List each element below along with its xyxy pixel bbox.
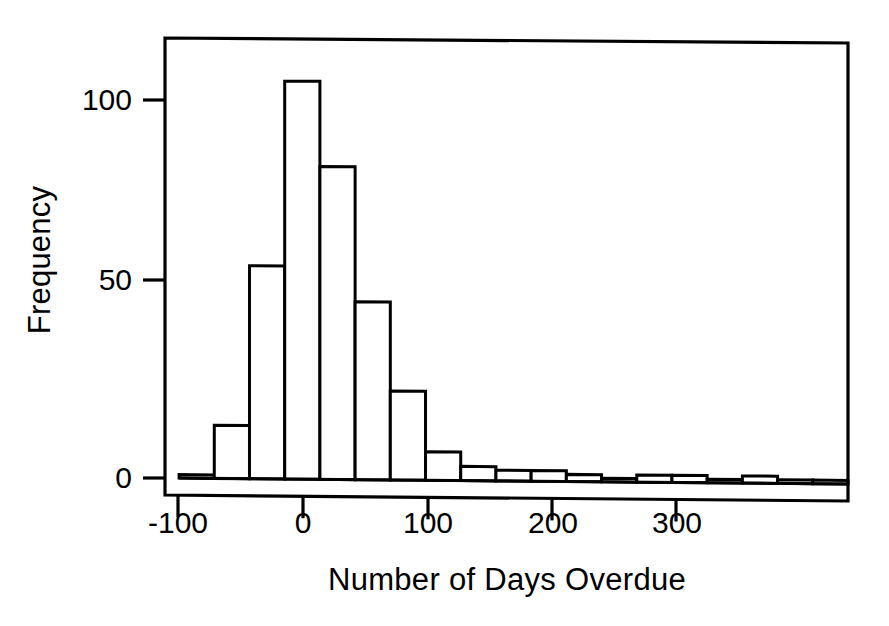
histogram-bar (214, 425, 249, 478)
histogram-bar (461, 466, 496, 481)
histogram-figure: Frequency 100 50 0 -100 0 100 200 300 Nu… (0, 0, 889, 626)
histogram-bar (249, 266, 284, 479)
histogram-bar (320, 167, 355, 480)
plot-area (0, 0, 889, 626)
histogram-bar (355, 302, 390, 480)
histogram-bar (285, 81, 320, 479)
histogram-bar (426, 452, 461, 481)
histogram-bars (179, 81, 848, 484)
histogram-bar (390, 391, 425, 480)
